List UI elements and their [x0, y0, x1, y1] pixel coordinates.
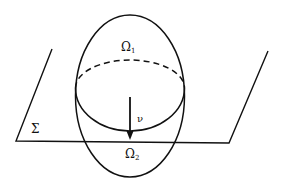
omega-1-symbol: Ω [121, 40, 131, 54]
arrowhead-icon [127, 131, 134, 140]
omega-1-subscript: 1 [131, 47, 135, 55]
ellipsoid-plane-diagram: Ω1 Ω2 Σ ν [0, 0, 284, 189]
omega-2-label: Ω2 [125, 148, 139, 162]
omega-2-symbol: Ω [125, 147, 135, 161]
diagram-canvas [0, 0, 284, 189]
nu-label: ν [137, 114, 143, 124]
equator-back-dashed [76, 60, 185, 88]
omega-1-label: Ω1 [121, 41, 135, 55]
omega-2-subscript: 2 [135, 154, 139, 162]
plane-outline [16, 49, 268, 143]
sigma-label: Σ [31, 123, 39, 135]
